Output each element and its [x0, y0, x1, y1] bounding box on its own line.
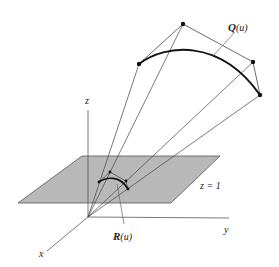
control-polygon-q	[139, 24, 260, 95]
curve-r-label: R(u)	[112, 230, 133, 243]
z-axis-label: z	[84, 95, 89, 106]
y-axis-label: y	[223, 224, 229, 235]
x-axis-label: x	[38, 248, 44, 259]
y-axis	[88, 217, 229, 218]
curve-r-symbol: R	[112, 230, 120, 242]
control-point-r1	[109, 171, 112, 174]
control-point-q1	[181, 22, 185, 26]
diagram-canvas: z y x z = 1 Q(u) R(u)	[0, 0, 279, 267]
curve-q-symbol: Q	[228, 21, 236, 33]
control-point-r2	[125, 180, 128, 183]
control-point-q2	[251, 60, 255, 64]
curve-q-label: Q(u)	[228, 21, 248, 34]
control-point-r3	[127, 188, 130, 191]
curve-q-arg: (u)	[236, 22, 248, 34]
x-axis	[47, 217, 88, 251]
curve-r-arg: (u)	[120, 231, 132, 243]
leader-q	[213, 33, 234, 56]
control-point-q0	[137, 62, 141, 66]
plane-label: z = 1	[199, 180, 221, 191]
control-point-q3	[258, 93, 262, 97]
control-point-r0	[98, 181, 101, 184]
